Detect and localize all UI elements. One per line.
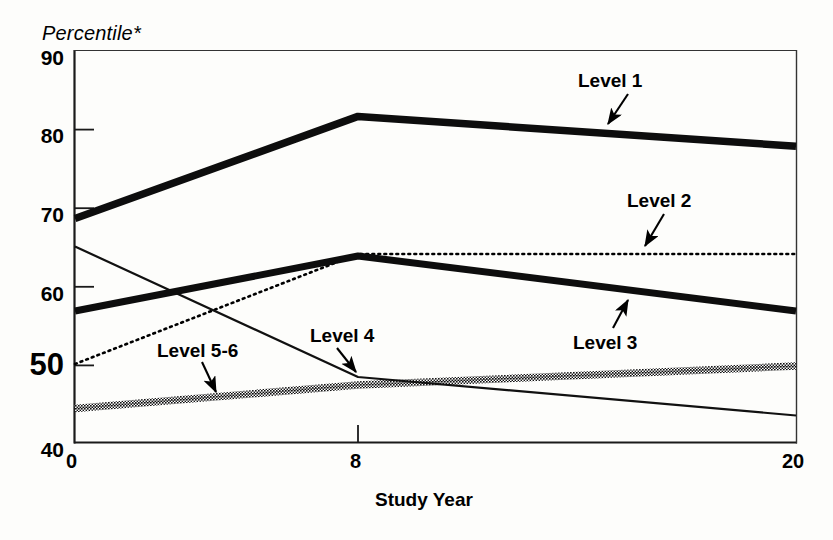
annotation-arrows [202,94,664,392]
arrow-level-3 [613,300,628,328]
arrow-level-1 [608,94,628,124]
arrow-level-2 [645,214,664,246]
arrow-level-5-6 [202,362,216,392]
series-line-level-2 [75,254,796,364]
series-line-level-3 [75,256,796,311]
series-line-level-5-6 [75,366,796,409]
series-line-level-4 [75,247,796,416]
chart-figure: Percentile* 90 80 70 60 50 40 0 8 20 Stu… [0,0,833,540]
series-line-level-1 [75,116,796,218]
plot-canvas [0,0,833,540]
